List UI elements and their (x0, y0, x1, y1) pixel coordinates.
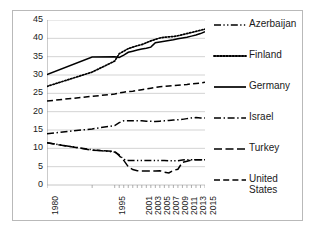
legend-label: Finland (249, 49, 282, 60)
y-axis-tick-label: 5 (23, 162, 43, 171)
legend-item-israel[interactable]: Israel (213, 111, 305, 137)
legend-swatch (213, 174, 247, 186)
x-axis-tick-label: 1980 (51, 196, 60, 215)
plot-svg (47, 20, 205, 189)
legend-item-germany[interactable]: Germany (213, 80, 305, 106)
x-axis-tick-label: 1995 (118, 196, 127, 215)
y-axis-tick-label: 30 (23, 70, 43, 79)
legend-swatch (213, 81, 247, 93)
series-line-united-states (47, 82, 205, 101)
legend-label: Turkey (249, 142, 279, 153)
y-axis-labels: 051015202530354045 (21, 0, 43, 185)
line-chart: 051015202530354045 198019952001200320052… (0, 0, 317, 233)
y-axis-tick-label: 0 (23, 180, 43, 189)
x-axis-labels: 1980199520012003200520072009201120132015 (47, 186, 209, 230)
legend-swatch (213, 143, 247, 155)
legend-item-united-states[interactable]: United States (213, 173, 305, 199)
legend-item-turkey[interactable]: Turkey (213, 142, 305, 168)
y-axis-tick-label: 20 (23, 107, 43, 116)
series-line-azerbaijan (47, 143, 205, 161)
plot-area (47, 20, 205, 185)
y-axis-tick-label: 10 (23, 143, 43, 152)
legend-swatch (213, 112, 247, 124)
legend-label: Israel (249, 111, 273, 122)
y-axis-tick-label: 40 (23, 33, 43, 42)
legend-label: Germany (249, 80, 290, 91)
series-line-israel (47, 118, 205, 134)
chart-legend: AzerbaijanFinlandGermanyIsraelTurkeyUnit… (213, 18, 305, 218)
legend-label: United States (249, 173, 278, 195)
y-axis-tick-label: 45 (23, 15, 43, 24)
legend-swatch (213, 19, 247, 31)
y-axis-tick-label: 25 (23, 88, 43, 97)
legend-swatch (213, 50, 247, 62)
legend-item-finland[interactable]: Finland (213, 49, 305, 75)
x-axis-tick-label: 2013 (199, 196, 208, 215)
legend-label: Azerbaijan (249, 18, 296, 29)
y-axis-tick-label: 15 (23, 125, 43, 134)
y-axis-tick-label: 35 (23, 52, 43, 61)
series-line-turkey (47, 143, 205, 173)
legend-item-azerbaijan[interactable]: Azerbaijan (213, 18, 305, 44)
